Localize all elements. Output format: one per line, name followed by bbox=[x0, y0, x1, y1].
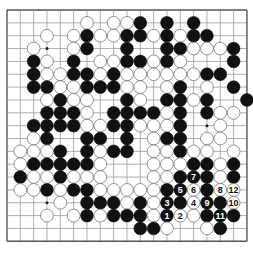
black-stone[interactable] bbox=[121, 29, 134, 42]
white-stone[interactable] bbox=[147, 119, 160, 132]
white-stone[interactable] bbox=[161, 145, 174, 158]
black-stone[interactable] bbox=[67, 158, 80, 171]
white-stone[interactable] bbox=[147, 158, 160, 171]
black-stone[interactable] bbox=[27, 119, 40, 132]
white-stone[interactable] bbox=[187, 94, 200, 107]
white-stone[interactable] bbox=[147, 209, 160, 222]
white-stone[interactable] bbox=[94, 68, 107, 81]
black-stone[interactable] bbox=[161, 94, 174, 107]
white-stone[interactable] bbox=[201, 132, 214, 145]
black-stone[interactable] bbox=[81, 158, 94, 171]
black-stone[interactable] bbox=[134, 16, 147, 29]
white-stone[interactable] bbox=[94, 119, 107, 132]
black-stone[interactable] bbox=[134, 222, 147, 235]
white-stone[interactable] bbox=[121, 68, 134, 81]
white-stone[interactable] bbox=[161, 119, 174, 132]
black-stone[interactable] bbox=[27, 55, 40, 68]
black-stone[interactable] bbox=[161, 29, 174, 42]
black-stone[interactable] bbox=[161, 184, 174, 197]
black-stone[interactable] bbox=[107, 81, 120, 94]
black-stone[interactable] bbox=[94, 81, 107, 94]
white-stone[interactable] bbox=[81, 171, 94, 184]
black-stone[interactable] bbox=[174, 94, 187, 107]
white-stone[interactable] bbox=[41, 209, 54, 222]
black-stone[interactable] bbox=[147, 222, 160, 235]
white-stone[interactable] bbox=[187, 209, 200, 222]
white-stone[interactable] bbox=[41, 171, 54, 184]
white-stone[interactable] bbox=[67, 171, 80, 184]
white-stone[interactable] bbox=[134, 68, 147, 81]
white-stone[interactable] bbox=[94, 55, 107, 68]
white-stone[interactable] bbox=[147, 184, 160, 197]
white-stone[interactable] bbox=[161, 171, 174, 184]
black-stone[interactable] bbox=[81, 196, 94, 209]
white-stone[interactable] bbox=[54, 196, 67, 209]
white-stone[interactable] bbox=[67, 29, 80, 42]
white-stone[interactable] bbox=[41, 145, 54, 158]
white-stone[interactable] bbox=[54, 184, 67, 197]
black-stone[interactable] bbox=[134, 196, 147, 209]
white-stone[interactable] bbox=[134, 81, 147, 94]
black-stone[interactable] bbox=[134, 55, 147, 68]
black-stone[interactable] bbox=[121, 119, 134, 132]
black-stone[interactable] bbox=[81, 81, 94, 94]
black-stone[interactable] bbox=[201, 171, 214, 184]
white-stone[interactable] bbox=[187, 42, 200, 55]
black-stone[interactable] bbox=[161, 42, 174, 55]
white-stone[interactable] bbox=[214, 171, 227, 184]
white-stone[interactable] bbox=[214, 158, 227, 171]
white-stone[interactable] bbox=[67, 209, 80, 222]
white-stone[interactable] bbox=[227, 145, 240, 158]
white-stone[interactable] bbox=[41, 94, 54, 107]
black-stone[interactable] bbox=[81, 29, 94, 42]
black-stone[interactable] bbox=[227, 55, 240, 68]
white-stone[interactable] bbox=[201, 81, 214, 94]
white-stone[interactable] bbox=[147, 196, 160, 209]
white-stone[interactable] bbox=[147, 171, 160, 184]
white-stone[interactable] bbox=[201, 145, 214, 158]
white-stone[interactable] bbox=[81, 94, 94, 107]
black-stone[interactable] bbox=[187, 29, 200, 42]
black-stone[interactable] bbox=[161, 16, 174, 29]
black-stone[interactable] bbox=[201, 184, 214, 197]
white-stone[interactable] bbox=[134, 184, 147, 197]
black-stone[interactable] bbox=[27, 81, 40, 94]
white-stone[interactable] bbox=[67, 81, 80, 94]
white-stone[interactable] bbox=[174, 68, 187, 81]
white-stone[interactable] bbox=[107, 29, 120, 42]
black-stone[interactable] bbox=[41, 119, 54, 132]
white-stone[interactable] bbox=[94, 145, 107, 158]
black-stone[interactable] bbox=[121, 209, 134, 222]
white-stone[interactable] bbox=[134, 119, 147, 132]
white-stone[interactable] bbox=[147, 145, 160, 158]
black-stone[interactable] bbox=[174, 81, 187, 94]
black-stone[interactable] bbox=[174, 196, 187, 209]
white-stone[interactable] bbox=[227, 106, 240, 119]
black-stone[interactable] bbox=[54, 94, 67, 107]
white-stone[interactable] bbox=[94, 29, 107, 42]
white-stone[interactable] bbox=[147, 29, 160, 42]
black-stone[interactable] bbox=[227, 158, 240, 171]
black-stone[interactable] bbox=[121, 94, 134, 107]
black-stone[interactable] bbox=[174, 145, 187, 158]
white-stone[interactable] bbox=[81, 119, 94, 132]
white-stone[interactable] bbox=[14, 184, 27, 197]
black-stone[interactable] bbox=[134, 209, 147, 222]
white-stone[interactable] bbox=[121, 81, 134, 94]
white-stone[interactable] bbox=[174, 158, 187, 171]
black-stone[interactable] bbox=[227, 209, 240, 222]
black-stone[interactable] bbox=[201, 106, 214, 119]
black-stone[interactable] bbox=[107, 106, 120, 119]
white-stone[interactable] bbox=[134, 94, 147, 107]
black-stone[interactable] bbox=[201, 94, 214, 107]
black-stone[interactable] bbox=[54, 171, 67, 184]
white-stone[interactable] bbox=[107, 55, 120, 68]
white-stone[interactable] bbox=[67, 42, 80, 55]
white-stone[interactable] bbox=[121, 184, 134, 197]
black-stone[interactable] bbox=[227, 81, 240, 94]
white-stone[interactable] bbox=[214, 119, 227, 132]
black-stone[interactable] bbox=[54, 158, 67, 171]
black-stone[interactable] bbox=[201, 29, 214, 42]
black-stone[interactable] bbox=[227, 42, 240, 55]
black-stone[interactable] bbox=[67, 55, 80, 68]
